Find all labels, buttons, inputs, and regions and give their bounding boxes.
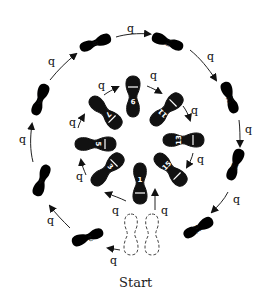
q-label: q	[76, 170, 83, 183]
svg-text:13: 13	[175, 135, 183, 145]
q-label: q	[48, 55, 55, 68]
q-label: q	[191, 104, 198, 117]
shoe-step-9	[126, 76, 140, 117]
shoe-step-13	[163, 133, 204, 147]
start-label: Start	[119, 275, 153, 290]
q-label: q	[245, 123, 252, 136]
start-right-foot	[145, 214, 159, 255]
q-label: q	[127, 22, 134, 35]
outer-step-numbers: 2 4 6 8 10 12 14 16	[36, 36, 241, 242]
q-label: q	[233, 193, 240, 206]
q-label: q	[161, 204, 168, 217]
timing-labels: q q q q q q q q q q q q q q q q	[19, 22, 252, 267]
outer-steps	[29, 31, 246, 248]
shoe-step-11	[147, 90, 186, 129]
q-label: q	[69, 116, 76, 129]
q-label: q	[110, 254, 117, 267]
svg-text:9: 9	[130, 97, 135, 105]
q-label: q	[47, 214, 54, 227]
start-position-feet	[124, 214, 159, 255]
shoe-step-15	[151, 150, 190, 189]
q-label: q	[197, 153, 204, 166]
svg-text:1: 1	[138, 176, 143, 184]
q-label: q	[98, 79, 105, 92]
inner-steps	[75, 76, 204, 204]
q-label: q	[207, 50, 214, 63]
start-left-foot	[124, 214, 138, 255]
q-label: q	[112, 204, 119, 217]
dance-step-diagram: q q q q q q q q q q q q q q q q 2 4 6 8 …	[0, 0, 268, 305]
svg-text:5: 5	[94, 142, 102, 147]
q-label: q	[150, 69, 157, 82]
q-label: q	[19, 133, 26, 146]
